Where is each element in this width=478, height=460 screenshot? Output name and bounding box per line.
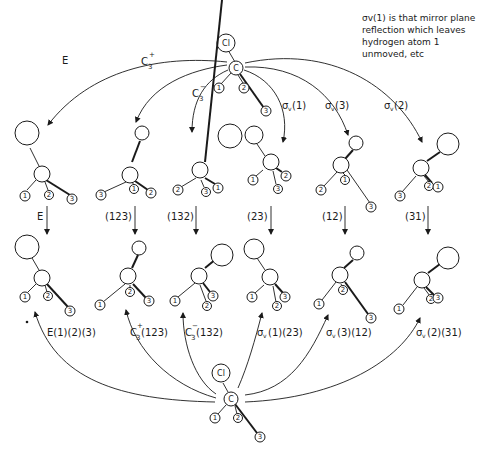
svg-text:1: 1 [216,184,220,192]
op-label-C3-plus: C + 3 [141,51,155,71]
combined-label-C3-plus: C + 3 (123) [130,322,168,342]
op-label-sigma-v2: σ v (2) [384,100,408,112]
svg-text:2: 2 [128,288,132,296]
row2-molecule-4: 1 2 3 [244,239,290,311]
svg-text:3: 3 [211,292,215,300]
note-line-3: hydrogen atom 1 [362,37,439,47]
return-arc-E [35,312,215,402]
svg-text:1: 1 [23,192,27,200]
row2-molecule-1: 1 2 3 [15,235,75,316]
perm-label-12: (12) [322,211,343,222]
perm-label-23: (23) [247,211,268,222]
svg-text:−: − [200,83,206,91]
svg-text:C: C [228,395,234,404]
symmetry-operations-diagram: σv(1) is that mirror plane reflection wh… [0,0,478,460]
perm-label-123: (123) [105,211,132,222]
svg-text:3: 3 [369,203,373,211]
svg-text:+: + [149,51,155,59]
explanatory-note: σv(1) is that mirror plane reflection wh… [362,13,476,59]
svg-text:3: 3 [148,63,152,71]
svg-text:3: 3 [99,191,103,199]
svg-text:1: 1 [173,297,177,305]
svg-text:(1)(23): (1)(23) [268,327,303,338]
svg-text:3: 3 [68,307,72,315]
svg-text:3: 3 [398,192,402,200]
svg-text:Cl: Cl [217,369,225,378]
svg-text:3: 3 [70,195,74,203]
combined-label-sigma-v1: σ v (1)(23) [257,327,303,339]
svg-text:2: 2 [429,295,433,303]
svg-text:2: 2 [46,292,50,300]
svg-text:1: 1 [132,185,136,193]
row1-molecule-C3-plus: 3 1 2 [96,126,156,200]
operation-labels: E C + 3 C − 3 σ v (1) σ v (3) σ v (2) [62,51,408,112]
svg-text:2: 2 [242,84,246,92]
svg-text:2: 2 [319,186,323,194]
row2-molecule-3: 1 2 3 [170,244,233,311]
svg-text:C: C [233,64,239,73]
perm-label-E: E [37,211,43,222]
svg-text:v: v [332,332,336,339]
svg-text:3: 3 [199,95,203,103]
op-label-C3-minus: C − 3 [192,83,206,103]
svg-text:1: 1 [436,183,440,191]
combined-label-sigma-v3: σ v (3)(12) [326,327,372,339]
row1-molecule-E: 1 2 3 [15,121,77,204]
svg-text:3: 3 [436,294,440,302]
row2-molecule-5: 1 2 3 [314,246,376,323]
svg-text:2: 2 [236,414,240,422]
svg-text:(123): (123) [141,327,168,338]
combined-labels: E(1)(2)(3) C + 3 (123) C − 3 (132) σ v (… [47,322,462,342]
svg-text:2: 2 [149,189,153,197]
svg-text:2: 2 [275,302,279,310]
op-label-sigma-v1: σ v (1) [282,100,306,112]
svg-text:2: 2 [427,182,431,190]
svg-text:3: 3 [276,185,280,193]
svg-text:2: 2 [47,191,51,199]
svg-text:3: 3 [147,297,151,305]
top-molecule: Cl C 1 2 3 [214,34,271,116]
svg-text:3: 3 [191,334,195,342]
row1-molecule-sigma-v3: 2 1 3 [316,136,376,212]
svg-text:C: C [192,88,199,99]
svg-text:3: 3 [264,107,268,115]
svg-text:v: v [263,332,267,339]
perm-label-132: (132) [167,211,194,222]
note-line-2: reflection which leaves [362,25,466,35]
svg-text:2: 2 [205,302,209,310]
svg-text:(132): (132) [196,327,223,338]
combined-label-C3-minus: C − 3 (132) [185,322,223,342]
svg-text:(3): (3) [335,100,349,111]
svg-text:3: 3 [258,433,262,441]
row1-molecule-sigma-v2: 3 2 1 [395,133,459,201]
op-label-E: E [62,55,68,66]
return-arc-C3-minus [183,313,216,394]
row1-molecule-C3-minus: 2 3 1 [173,0,242,197]
row2-molecule-2: 1 2 3 [95,241,154,310]
svg-text:2: 2 [176,186,180,194]
svg-text:1: 1 [317,300,321,308]
svg-text:1: 1 [217,84,221,92]
svg-text:Cl: Cl [222,39,230,48]
svg-text:1: 1 [343,176,347,184]
svg-text:3: 3 [204,188,208,196]
svg-text:(3)(12): (3)(12) [337,327,372,338]
svg-text:1: 1 [213,414,217,422]
svg-text:1: 1 [23,293,27,301]
svg-text:1: 1 [397,305,401,313]
note-line-4: unmoved, etc [362,49,424,59]
svg-text:1: 1 [251,176,255,184]
svg-text:(2): (2) [394,100,408,111]
svg-text:v: v [422,332,426,339]
combined-label-sigma-v2: σ v (2)(31) [416,327,462,339]
svg-text:(1): (1) [292,100,306,111]
combined-label-E: E(1)(2)(3) [47,327,96,338]
row2-molecules: 1 2 3 1 2 3 1 2 3 [15,235,459,323]
svg-text:3: 3 [283,293,287,301]
row2-molecule-6: 1 2 3 [394,247,459,314]
svg-text:2: 2 [341,286,345,294]
return-arc-sigma-v1 [238,313,262,388]
svg-text:3: 3 [369,314,373,322]
svg-text:1: 1 [98,301,102,309]
svg-text:1: 1 [250,293,254,301]
